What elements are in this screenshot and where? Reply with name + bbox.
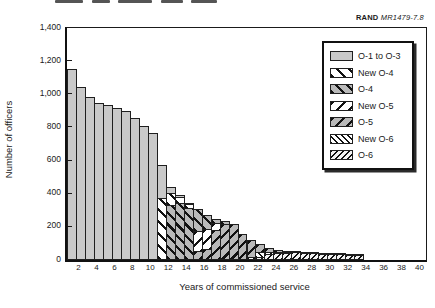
x-tick-label: 30 xyxy=(321,263,339,272)
y-tick-label: 600 xyxy=(21,155,61,164)
cropped-caption-fragment xyxy=(161,0,183,3)
legend-label: O-4 xyxy=(358,84,373,94)
x-tick-label: 26 xyxy=(285,263,303,272)
bar-segment-o-1-to-o-3 xyxy=(166,187,176,194)
legend-label: New O-4 xyxy=(358,68,394,78)
legend-row: O-4 xyxy=(330,81,406,98)
legend-label: New O-6 xyxy=(358,134,394,144)
bar-segment-o-5 xyxy=(354,254,364,256)
x-tick-label: 10 xyxy=(141,263,159,272)
y-tick-label: 1,000 xyxy=(21,89,61,98)
x-tick-label: 38 xyxy=(393,263,411,272)
x-tick-label: 20 xyxy=(231,263,249,272)
document-id: MR1479-7.8 xyxy=(381,13,424,22)
legend-swatch-o-5 xyxy=(330,117,353,127)
x-tick-label: 12 xyxy=(159,263,177,272)
x-tick-label: 4 xyxy=(87,263,105,272)
x-tick-label: 16 xyxy=(195,263,213,272)
cropped-caption-fragment xyxy=(191,0,217,3)
legend-label: O-1 to O-3 xyxy=(358,51,401,61)
x-tick-label: 8 xyxy=(123,263,141,272)
x-tick-label: 18 xyxy=(213,263,231,272)
legend-row: New O-6 xyxy=(330,131,406,148)
bar-segment-o-1-to-o-3 xyxy=(175,195,185,198)
legend-swatch-o-4 xyxy=(330,84,353,94)
figure-source-line: RAND MR1479-7.8 xyxy=(356,13,424,22)
y-tick-label: 400 xyxy=(21,188,61,197)
x-tick-label: 40 xyxy=(411,263,429,272)
x-tick-label: 2 xyxy=(69,263,87,272)
y-tick-label: 0 xyxy=(21,255,61,264)
legend-label: New O-5 xyxy=(358,101,394,111)
y-tick-mark xyxy=(67,126,72,127)
x-tick-label: 22 xyxy=(249,263,267,272)
x-tick-label: 32 xyxy=(339,263,357,272)
y-tick-mark xyxy=(67,226,72,227)
legend-swatch-new-o-4 xyxy=(330,68,353,78)
legend-row: O-6 xyxy=(330,147,406,164)
x-axis-title: Years of commissioned service xyxy=(65,281,424,292)
legend-swatch-new-o-6 xyxy=(330,134,353,144)
legend-row: O-5 xyxy=(330,114,406,131)
y-tick-mark xyxy=(67,193,72,194)
rand-brand: RAND xyxy=(356,13,378,22)
y-tick-label: 1,400 xyxy=(21,23,61,32)
x-tick-label: 14 xyxy=(177,263,195,272)
legend-row: New O-4 xyxy=(330,65,406,82)
y-tick-label: 1,200 xyxy=(21,56,61,65)
y-axis-title: Number of officers xyxy=(3,70,14,210)
cropped-caption-fragment xyxy=(92,0,110,3)
y-tick-mark xyxy=(67,160,72,161)
x-tick-label: 24 xyxy=(267,263,285,272)
y-tick-label: 800 xyxy=(21,122,61,131)
legend-box: O-1 to O-3New O-4O-4New O-5O-5New O-6O-6 xyxy=(322,41,414,170)
legend-swatch-o-6 xyxy=(330,150,353,160)
x-tick-label: 36 xyxy=(375,263,393,272)
legend-label: O-6 xyxy=(358,150,373,160)
x-tick-label: 6 xyxy=(105,263,123,272)
legend-row: O-1 to O-3 xyxy=(330,48,406,65)
y-tick-mark xyxy=(67,60,72,61)
legend-label: O-5 xyxy=(358,117,373,127)
figure-canvas: RAND MR1479-7.8 Number of officers Years… xyxy=(0,0,435,308)
cropped-caption-fragment xyxy=(118,0,152,3)
bar-segment-o-1-to-o-3 xyxy=(184,203,194,205)
x-tick-label: 28 xyxy=(303,263,321,272)
legend-swatch-new-o-5 xyxy=(330,101,353,111)
legend-swatch-o-1-to-o-3 xyxy=(330,51,353,61)
legend-row: New O-5 xyxy=(330,98,406,115)
y-tick-label: 200 xyxy=(21,221,61,230)
cropped-caption-fragment xyxy=(55,0,83,3)
y-tick-mark xyxy=(67,93,72,94)
x-tick-label: 34 xyxy=(357,263,375,272)
